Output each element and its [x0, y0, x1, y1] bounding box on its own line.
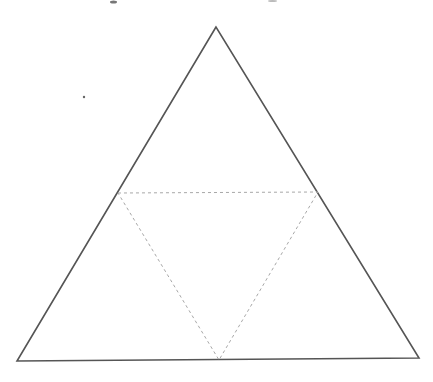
- outer-triangle: [17, 27, 419, 361]
- text-descender-fragment: [268, 0, 277, 2]
- top-text-fragments: [110, 0, 277, 4]
- stray-dot: [83, 96, 85, 98]
- triangle-diagram: [0, 0, 433, 382]
- inner-dashed-triangle: [118, 192, 318, 360]
- text-descender-fragment: [110, 1, 117, 4]
